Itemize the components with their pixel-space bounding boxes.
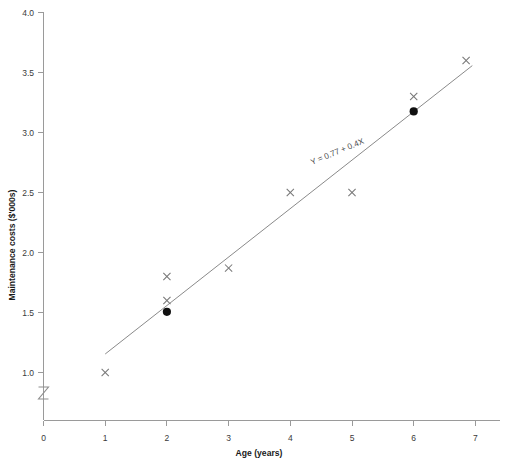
y-axis-tick-labels: 4.0 3.5 3.0 2.5 2.0 1.5 1.0 (22, 8, 34, 378)
data-point-cross (163, 297, 170, 304)
data-point-cross (410, 93, 417, 100)
data-point-cross (163, 273, 170, 280)
x-tick-label-5: 5 (350, 433, 355, 443)
data-point-cross (348, 189, 355, 196)
plot-canvas: 4.0 3.5 3.0 2.5 2.0 1.5 1.0 0 1 2 (0, 0, 510, 461)
y-axis-ticks (38, 13, 44, 373)
data-point-cross (102, 369, 109, 376)
trendline-group (105, 66, 472, 354)
x-axis-tick-labels: 0 1 2 3 4 5 6 7 (41, 433, 478, 443)
y-tick-label-2-0: 2.0 (22, 248, 34, 258)
data-point-cross (463, 57, 470, 64)
x-tick-label-7: 7 (473, 433, 478, 443)
x-tick-label-6: 6 (411, 433, 416, 443)
y-tick-label-1-0: 1.0 (22, 368, 34, 378)
y-axis-title: Maintenance costs ($'000s) (7, 189, 17, 300)
x-axis-title: Age (years) (236, 448, 283, 458)
x-tick-label-1: 1 (103, 433, 108, 443)
regression-line (105, 66, 472, 354)
x-tick-label-3: 3 (226, 433, 231, 443)
scatter-plot-figure: 4.0 3.5 3.0 2.5 2.0 1.5 1.0 0 1 2 (0, 0, 510, 461)
y-tick-label-1-5: 1.5 (22, 308, 34, 318)
data-point-cross (287, 189, 294, 196)
x-tick-label-2: 2 (165, 433, 170, 443)
x-tick-label-4: 4 (288, 433, 293, 443)
axes-group (44, 12, 501, 421)
y-tick-label-2-5: 2.5 (22, 188, 34, 198)
data-markers-cross (102, 57, 470, 376)
fitted-point-dot (410, 107, 418, 115)
y-tick-label-4-0: 4.0 (22, 8, 34, 18)
y-tick-label-3-0: 3.0 (22, 128, 34, 138)
regression-equation-label: Y = 0.77 + 0.4X (309, 137, 365, 167)
x-tick-label-0: 0 (41, 433, 46, 443)
data-point-cross (225, 265, 232, 272)
y-tick-label-3-5: 3.5 (22, 68, 34, 78)
fitted-point-dot (163, 308, 171, 316)
x-axis-ticks (44, 421, 476, 427)
